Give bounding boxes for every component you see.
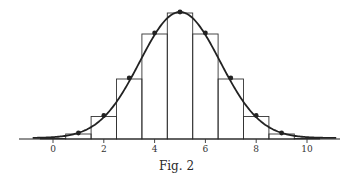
histogram-chart: 0246810 xyxy=(0,0,353,160)
data-point xyxy=(152,31,157,36)
histogram-bar xyxy=(91,117,116,140)
x-tick-label: 2 xyxy=(101,144,107,154)
figure-caption: Fig. 2 xyxy=(0,159,353,173)
data-point xyxy=(101,113,106,118)
data-point xyxy=(254,113,259,118)
histogram-bars xyxy=(40,13,319,139)
data-point xyxy=(76,131,81,136)
data-point xyxy=(127,76,132,81)
histogram-bar xyxy=(218,79,243,139)
x-tick-label: 10 xyxy=(301,144,313,154)
x-tick-label: 4 xyxy=(152,144,158,154)
histogram-bar xyxy=(167,13,192,139)
x-tick-label: 8 xyxy=(253,144,259,154)
data-point xyxy=(279,131,284,136)
data-point xyxy=(228,76,233,81)
x-tick-label: 6 xyxy=(203,144,209,154)
data-point xyxy=(203,31,208,36)
x-tick-label: 0 xyxy=(50,144,56,154)
x-axis-ticks: 0246810 xyxy=(50,139,313,154)
histogram-bar xyxy=(244,117,269,140)
data-point xyxy=(178,10,183,15)
histogram-bar xyxy=(117,79,142,139)
normal-curve xyxy=(33,12,337,138)
